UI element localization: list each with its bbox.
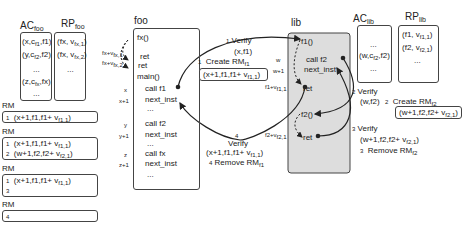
ac-foo-row: (y,cf2,f2)	[22, 50, 51, 59]
foo-line: main()	[137, 72, 160, 81]
rm-state-1: 1 (x+1,f1,f1+ vf1,1)	[2, 111, 98, 123]
rm-entry: 4	[6, 212, 9, 222]
foo-line: next_inst	[145, 130, 177, 139]
rp-lib-row: (f2, vf2,1)	[402, 43, 432, 52]
foo-line: next_inst	[145, 95, 177, 104]
lib-address: w+1	[273, 67, 284, 76]
foo-line: next_inst	[145, 159, 177, 168]
step1-verify-args: (x,f1)	[234, 47, 252, 56]
lib-line: f2()	[301, 110, 313, 119]
rm-entry: 1 (x+1,f1,f1+ vf1,1)	[6, 113, 71, 123]
foo-address: y+1	[119, 132, 129, 141]
step1-verify: 1 Verify	[226, 36, 252, 46]
rm-f1-entry-box: (x+1,f1,f1+ vf1,1)	[199, 68, 268, 81]
lib-line: call f2	[306, 55, 327, 64]
foo-address: x	[124, 86, 127, 95]
ac-foo-title: ACfoo	[20, 21, 44, 30]
foo-address: x+1	[119, 97, 129, 106]
foo-address: z	[124, 151, 127, 160]
step3-remove: 3 Remove RMf2	[360, 146, 417, 156]
rm-entry: 1 (x+1,f1,f1+ vf1,1)	[6, 139, 71, 149]
foo-address: y	[124, 121, 127, 130]
ac-lib-row: (w,cf2,f2)	[359, 51, 390, 60]
foo-line: call f2	[145, 119, 166, 128]
lib-line: ret	[303, 84, 312, 93]
rp-lib-row: ...	[414, 56, 421, 65]
lib-title: lib	[291, 18, 301, 27]
rm-label: RM	[2, 164, 14, 173]
diagram-canvas: ACfoo (x,cf1,f1) (y,cf2,f2) ... (z,cfx,f…	[0, 0, 474, 243]
foo-title: foo	[134, 16, 148, 25]
ac-lib-title: AClib	[353, 14, 374, 23]
rm-f1-entry: (x+1,f1,f1+ vf1,1)	[203, 70, 260, 79]
lib-ret-label: f2+vf2,1	[265, 131, 287, 140]
foo-line: ...	[147, 170, 154, 179]
rp-foo-row: (fx, vfx,1)	[57, 37, 87, 46]
lib-box	[288, 33, 350, 173]
rp-foo-row: (fx, vfx,2)	[57, 50, 87, 59]
rm-state-2: 1 (x+1,f1,f1+ vf1,1) 2 (w+1,f2,f2+ vf2,1…	[2, 137, 98, 160]
step4-remove: 4 Remove RMf1	[209, 158, 264, 168]
lib-ret-label: f1+vf1,1	[265, 83, 287, 92]
foo-ret-label: fx+vfx,1	[102, 49, 123, 58]
rm-entry: 2 (w+1,f2,f2+ vf2,1)	[6, 149, 73, 159]
rm-f2-entry: (w+1,f2,f2+ vf2,1)	[399, 108, 458, 117]
rp-lib-row: (f1, vf1,1)	[402, 30, 432, 39]
foo-line: ...	[147, 104, 154, 113]
rp-foo-row: ...	[67, 65, 74, 74]
lib-line: next_inst	[304, 65, 336, 74]
foo-line: ret	[140, 52, 149, 61]
rm-state-3: 1 (x+1,f1,f1+ vf1,1) 3	[2, 174, 98, 197]
rm-state-4: 4	[2, 210, 98, 222]
ac-foo-row: (x,cf1,f1)	[22, 37, 51, 46]
rp-lib-table: (f1, vf1,1) (f2, vf2,1) ...	[398, 25, 439, 83]
ac-lib-row: ...	[370, 64, 377, 73]
rm-entry: 3	[6, 186, 9, 196]
step2-verify-args: (w,f2)	[360, 97, 380, 106]
foo-ret-label: fx+vfx,2	[102, 59, 123, 68]
foo-line: call fx	[145, 149, 165, 158]
rp-lib-title: RPlib	[405, 12, 426, 21]
rp-foo-table: (fx, vfx,1) (fx, vfx,2) ...	[54, 32, 86, 101]
rm-f2-entry-box: (w+1,f2,f2+ vf2,1)	[395, 106, 462, 119]
foo-line: fx()	[137, 33, 149, 42]
step1-create: 1 Create RMf1	[198, 57, 250, 67]
step2-verify: 2 Verify	[352, 87, 378, 97]
ac-lib-row: ...	[370, 40, 377, 49]
foo-line: ...	[147, 139, 154, 148]
step4-verify-args: (x+1,f1,f1+ vf1,1)	[206, 148, 263, 157]
lib-address: w	[276, 56, 280, 65]
rm-entry: 1 (x+1,f1,f1+ vf1,1)	[6, 176, 71, 186]
rp-foo-title: RPfoo	[61, 19, 85, 28]
step4-verify: Verify	[228, 139, 248, 148]
lib-line: ret	[303, 133, 312, 142]
ac-foo-row: ...	[33, 65, 40, 74]
ac-lib-table: ... (w,cf2,f2) ...	[357, 25, 392, 83]
ac-foo-table: (x,cf1,f1) (y,cf2,f2) ... (z,cfx,fx) ...	[20, 32, 52, 101]
rm-label: RM	[2, 200, 14, 209]
rm-label: RM	[2, 127, 14, 136]
foo-line: ret	[138, 61, 147, 70]
rm-label: RM	[2, 101, 14, 110]
foo-line: call f1	[145, 84, 166, 93]
step3-verify-args: (w+1,f2,f2+ vf2,1)	[360, 135, 419, 144]
foo-address: z+1	[119, 161, 129, 170]
lib-line: f1()	[301, 37, 313, 46]
step3-verify: 3 Verify	[352, 124, 378, 134]
ac-foo-row: (z,cfx,fx)	[22, 77, 51, 86]
ac-foo-row: ...	[33, 89, 40, 98]
